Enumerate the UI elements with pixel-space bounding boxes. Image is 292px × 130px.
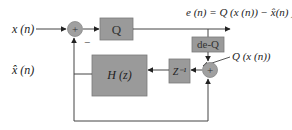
- dequantizer-label: de-Q: [197, 38, 219, 50]
- delay-label: Z⁻¹: [173, 66, 187, 77]
- sum2-plus: +: [207, 64, 213, 76]
- sum-node-2: +: [203, 63, 218, 78]
- quantizer-block: Q: [100, 18, 133, 40]
- filter-block: H (z): [92, 55, 147, 96]
- sum1-minus: −: [84, 36, 90, 48]
- dpcm-block-diagram: x (n) + − Q e (n) = Q (x (n)) − x̂(n) ) …: [0, 0, 292, 130]
- sum-node-1: + −: [68, 22, 91, 49]
- error-label: e (n) = Q (x (n)) − x̂(n) ): [186, 6, 292, 19]
- filter-label: H (z): [106, 68, 131, 82]
- quantized-label: Q (x (n)): [232, 50, 271, 63]
- delay-block: Z⁻¹: [169, 59, 190, 83]
- estimate-label: x̂ (n): [11, 63, 34, 77]
- sum1-plus: +: [72, 23, 78, 35]
- dequantizer-block: de-Q: [192, 37, 224, 52]
- input-label: x (n): [11, 22, 34, 36]
- quantizer-label: Q: [112, 22, 122, 37]
